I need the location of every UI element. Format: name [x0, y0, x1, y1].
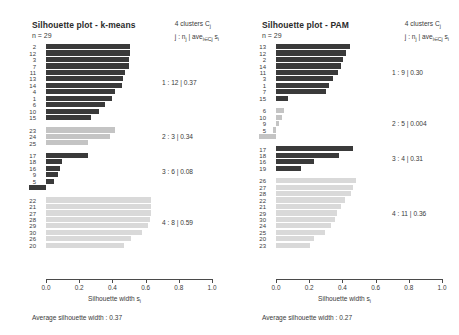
axis-tick-label: 0.0 — [42, 284, 51, 291]
observation-label: 11 — [10, 70, 36, 76]
observation-label: 16 — [240, 159, 266, 165]
observation-label: 1 — [10, 96, 36, 102]
axis-tick-label: 0.6 — [141, 284, 150, 291]
silhouette-bar — [46, 204, 151, 209]
plot-area-pam: 1312214113171561095417181619262728222129… — [230, 42, 459, 274]
sample-size-label: n = 29 — [262, 32, 282, 39]
silhouette-bar — [46, 236, 131, 241]
silhouette-bar — [276, 191, 351, 196]
silhouette-bar — [46, 210, 151, 215]
silhouette-bar — [46, 89, 115, 94]
silhouette-bar — [46, 197, 151, 202]
axis-title: Silhouette width si — [0, 295, 229, 304]
plot-area-kmeans: 2123711131441610152324251718169519222127… — [0, 42, 229, 274]
silhouette-bar — [46, 70, 125, 75]
silhouette-bar — [276, 236, 314, 241]
axis-tick — [342, 279, 343, 283]
observation-label: 7 — [10, 64, 36, 70]
silhouette-bar — [276, 57, 343, 62]
observation-label: 21 — [240, 204, 266, 210]
silhouette-bar — [276, 44, 350, 49]
observation-label: 9 — [10, 172, 36, 178]
observation-label: 14 — [10, 83, 36, 89]
observation-label: 10 — [240, 115, 266, 121]
observation-label: 13 — [240, 44, 266, 50]
silhouette-bar — [29, 185, 46, 190]
silhouette-bar — [46, 83, 122, 88]
observation-label: 5 — [10, 179, 36, 185]
silhouette-bar — [46, 109, 99, 114]
cluster-annotation: 3 : 6 | 0.08 — [162, 168, 193, 175]
axis-tick — [112, 279, 113, 283]
silhouette-bar — [46, 63, 129, 68]
silhouette-bar — [276, 210, 337, 215]
axis-tick-label: 0.6 — [371, 284, 380, 291]
observation-label: 28 — [10, 217, 36, 223]
silhouette-bar — [273, 127, 276, 132]
silhouette-bar — [46, 243, 124, 248]
axis-tick-label: 0.4 — [338, 284, 347, 291]
silhouette-bar — [276, 178, 356, 183]
cluster-annotation: 2 : 3 | 0.34 — [162, 133, 193, 140]
observation-label: 23 — [10, 128, 36, 134]
axis-tick-label: 0.2 — [305, 284, 314, 291]
observation-label: 27 — [10, 211, 36, 217]
observation-label: 9 — [240, 121, 266, 127]
legend-kmeans: 4 clusters Cj j : nj | avei∈Cj si — [175, 19, 219, 45]
observation-label: 24 — [10, 134, 36, 140]
silhouette-figure: Silhouette plot - k-means n = 29 4 clust… — [0, 0, 459, 335]
silhouette-bar — [276, 223, 331, 228]
silhouette-bar — [276, 230, 325, 235]
observation-label: 28 — [240, 191, 266, 197]
observation-label: 27 — [240, 185, 266, 191]
silhouette-bar — [276, 115, 282, 120]
observation-label: 7 — [240, 89, 266, 95]
legend-line1: 4 clusters Cj — [405, 20, 441, 27]
axis-tick-label: 0.2 — [75, 284, 84, 291]
cluster-annotation: 4 : 8 | 0.59 — [162, 219, 193, 226]
silhouette-bar — [46, 217, 150, 222]
cluster-annotation: 1 : 12 | 0.37 — [162, 79, 197, 86]
silhouette-bar — [46, 134, 110, 139]
silhouette-bar — [276, 146, 353, 151]
observation-label: 12 — [240, 51, 266, 57]
observation-label: 29 — [240, 211, 266, 217]
silhouette-bar — [276, 96, 288, 101]
silhouette-bar — [46, 172, 58, 177]
axis-line — [276, 279, 442, 280]
observation-label: 3 — [240, 76, 266, 82]
observation-label: 17 — [240, 147, 266, 153]
observation-label: 14 — [240, 64, 266, 70]
observation-label: 10 — [10, 109, 36, 115]
panel-title: Silhouette plot - PAM — [262, 20, 349, 30]
silhouette-bar — [46, 96, 112, 101]
observation-label: 21 — [10, 204, 36, 210]
observation-label: 20 — [240, 236, 266, 242]
observation-label: 6 — [240, 108, 266, 114]
axis-tick-label: 0.4 — [108, 284, 117, 291]
observation-label: 4 — [10, 89, 36, 95]
axis-tick — [179, 279, 180, 283]
axis-tick-label: 0.8 — [174, 284, 183, 291]
silhouette-bar — [276, 243, 310, 248]
axis-tick — [146, 279, 147, 283]
silhouette-bar — [46, 223, 148, 228]
silhouette-bar — [46, 76, 123, 81]
legend-pam: 4 clusters Cj j : nj | avei∈Cj si — [405, 19, 449, 45]
panel-kmeans: Silhouette plot - k-means n = 29 4 clust… — [0, 0, 229, 335]
silhouette-bar — [46, 127, 115, 132]
average-silhouette-width: Average silhouette width : 0.37 — [32, 314, 122, 321]
observation-label: 18 — [10, 159, 36, 165]
observation-label: 15 — [10, 115, 36, 121]
average-silhouette-width: Average silhouette width : 0.27 — [262, 314, 352, 321]
axis-tick — [376, 279, 377, 283]
observation-label: 3 — [10, 57, 36, 63]
silhouette-bar — [46, 57, 129, 62]
axis-line — [46, 279, 212, 280]
observation-label: 30 — [240, 217, 266, 223]
silhouette-bar — [276, 63, 341, 68]
cluster-annotation: 3 : 4 | 0.31 — [392, 155, 423, 162]
axis-tick — [79, 279, 80, 283]
observation-label: 29 — [10, 223, 36, 229]
silhouette-bar — [46, 50, 130, 55]
